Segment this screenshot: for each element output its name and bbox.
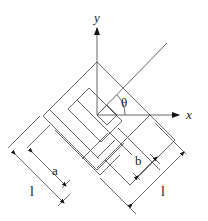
- lattice-lines: [50, 100, 160, 206]
- diagram: y x θ a l b l: [0, 0, 208, 221]
- dim-l-right-ext1: [155, 123, 186, 154]
- y-axis-label: y: [92, 10, 100, 25]
- x-axis-label: x: [185, 107, 192, 122]
- dim-a-ext2: [62, 180, 70, 188]
- outer-square-left: [43, 62, 124, 170]
- dim-l-left-label: l: [30, 184, 34, 199]
- theta-label: θ: [121, 95, 127, 110]
- dim-l-left-ext2: [58, 194, 70, 206]
- dim-l-right-label: l: [161, 184, 165, 199]
- theta-direction-line: [97, 43, 167, 115]
- dim-a-label: a: [52, 163, 58, 178]
- dim-b-label: b: [135, 153, 142, 168]
- dim-a-ext1: [27, 125, 50, 148]
- dim-a-line: [31, 151, 65, 185]
- dim-l-right-ext2: [126, 204, 136, 214]
- dim-l-left-ext1: [8, 116, 40, 148]
